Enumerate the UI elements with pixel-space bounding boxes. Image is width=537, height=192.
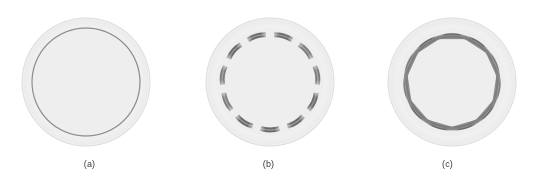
figure-panel: (a) <box>0 0 179 192</box>
figure-panel-group: (a) (b) (c) <box>0 0 537 192</box>
panel-caption: (b) <box>179 158 358 170</box>
figure-panel: (c) <box>358 0 537 192</box>
panel-caption: (c) <box>358 158 537 170</box>
figure-panel: (b) <box>179 0 358 192</box>
panel-caption: (a) <box>0 158 179 170</box>
